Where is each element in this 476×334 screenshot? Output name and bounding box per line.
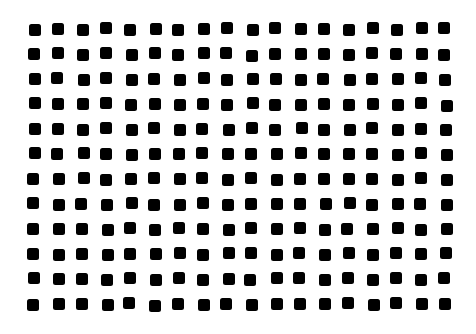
grid-dot bbox=[149, 148, 161, 160]
grid-dot bbox=[172, 298, 184, 310]
grid-dot bbox=[295, 147, 307, 159]
grid-dot bbox=[124, 222, 136, 234]
grid-dot bbox=[294, 173, 306, 185]
grid-dot bbox=[100, 174, 112, 186]
grid-dot bbox=[440, 247, 452, 259]
grid-dot bbox=[222, 148, 234, 160]
grid-dot bbox=[247, 73, 259, 85]
grid-dot bbox=[294, 222, 306, 234]
grid-dot bbox=[294, 198, 306, 210]
grid-dot bbox=[126, 149, 138, 161]
grid-dot bbox=[223, 273, 235, 285]
grid-dot bbox=[148, 122, 160, 134]
grid-dot bbox=[390, 297, 402, 309]
grid-dot bbox=[367, 249, 379, 261]
grid-dot bbox=[150, 248, 162, 260]
grid-dot bbox=[415, 147, 427, 159]
grid-dot bbox=[173, 148, 185, 160]
grid-dot bbox=[125, 173, 137, 185]
grid-dot bbox=[100, 72, 112, 84]
grid-dot bbox=[367, 98, 379, 110]
grid-dot bbox=[28, 48, 40, 60]
grid-dot bbox=[126, 197, 138, 209]
grid-dot bbox=[27, 223, 39, 235]
grid-dot bbox=[295, 74, 307, 86]
grid-dot bbox=[198, 23, 210, 35]
grid-dot bbox=[271, 223, 283, 235]
grid-dot bbox=[198, 299, 210, 311]
grid-dot bbox=[366, 199, 378, 211]
grid-dot bbox=[246, 50, 258, 62]
grid-dot bbox=[392, 222, 404, 234]
grid-dot bbox=[416, 48, 428, 60]
grid-dot bbox=[197, 98, 209, 110]
grid-dot bbox=[271, 298, 283, 310]
grid-dot bbox=[367, 22, 379, 34]
grid-dot bbox=[150, 274, 162, 286]
grid-dot bbox=[343, 173, 355, 185]
grid-dot bbox=[343, 148, 355, 160]
grid-dot bbox=[441, 100, 453, 112]
grid-dot bbox=[172, 49, 184, 61]
grid-dot bbox=[27, 173, 39, 185]
grid-dot bbox=[368, 299, 380, 311]
grid-dot bbox=[439, 74, 451, 86]
grid-dot bbox=[269, 99, 281, 111]
grid-dot bbox=[318, 98, 330, 110]
grid-dot bbox=[221, 22, 233, 34]
grid-dot bbox=[440, 124, 452, 136]
grid-dot bbox=[245, 148, 257, 160]
grid-dot bbox=[100, 47, 112, 59]
grid-dot bbox=[366, 173, 378, 185]
grid-dot bbox=[293, 247, 305, 259]
grid-dot bbox=[390, 48, 402, 60]
grid-dot bbox=[220, 47, 232, 59]
grid-dot bbox=[344, 74, 356, 86]
grid-dot bbox=[52, 123, 64, 135]
grid-dot bbox=[391, 24, 403, 36]
grid-dot bbox=[29, 147, 41, 159]
grid-dot bbox=[319, 298, 331, 310]
grid-dot bbox=[76, 298, 88, 310]
grid-dot bbox=[100, 22, 112, 34]
grid-dot bbox=[174, 173, 186, 185]
grid-dot bbox=[126, 74, 138, 86]
grid-dot bbox=[366, 148, 378, 160]
grid-dot bbox=[415, 123, 427, 135]
dot-grid bbox=[0, 0, 476, 334]
grid-dot bbox=[366, 47, 378, 59]
grid-dot bbox=[222, 199, 234, 211]
grid-dot bbox=[416, 298, 428, 310]
grid-dot bbox=[317, 73, 329, 85]
grid-dot bbox=[295, 48, 307, 60]
grid-dot bbox=[343, 24, 355, 36]
grid-dot bbox=[100, 122, 112, 134]
grid-dot bbox=[221, 74, 233, 86]
grid-dot bbox=[124, 24, 136, 36]
grid-dot bbox=[415, 274, 427, 286]
grid-dot bbox=[223, 224, 235, 236]
grid-dot bbox=[174, 199, 186, 211]
grid-dot bbox=[439, 298, 451, 310]
grid-dot bbox=[196, 123, 208, 135]
grid-dot bbox=[344, 197, 356, 209]
grid-dot bbox=[220, 298, 232, 310]
grid-dot bbox=[295, 23, 307, 35]
grid-dot bbox=[78, 74, 90, 86]
grid-dot bbox=[318, 173, 330, 185]
grid-dot bbox=[269, 48, 281, 60]
grid-dot bbox=[197, 223, 209, 235]
grid-dot bbox=[223, 124, 235, 136]
grid-dot bbox=[247, 97, 259, 109]
grid-dot bbox=[392, 174, 404, 186]
grid-dot bbox=[174, 74, 186, 86]
grid-dot bbox=[148, 73, 160, 85]
grid-dot bbox=[29, 123, 41, 135]
grid-dot bbox=[367, 274, 379, 286]
grid-dot bbox=[27, 248, 39, 260]
grid-dot bbox=[102, 249, 114, 261]
grid-dot bbox=[53, 249, 65, 261]
grid-dot bbox=[318, 48, 330, 60]
grid-dot bbox=[150, 23, 162, 35]
grid-dot bbox=[174, 124, 186, 136]
